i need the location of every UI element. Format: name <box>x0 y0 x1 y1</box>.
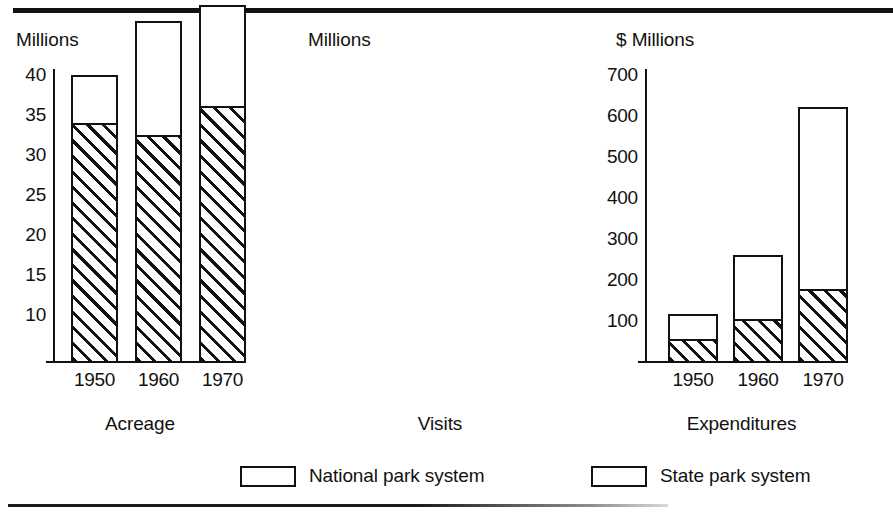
y-tick-label: 25 <box>25 184 46 206</box>
bar-segment-national <box>199 106 246 363</box>
bar-segment-national <box>135 135 182 363</box>
bar-segment-national <box>71 123 118 363</box>
y-tick-label: 20 <box>25 224 46 246</box>
bar-segment-state <box>71 75 118 125</box>
legend-swatch-outline-icon <box>591 466 647 487</box>
legend-item-national-park-system: National park system <box>240 461 484 491</box>
x-tick-label: 1970 <box>202 369 243 391</box>
y-tick-label: 15 <box>25 264 46 286</box>
x-tick-label: 1950 <box>74 369 115 391</box>
bar-1950: 1950 <box>71 75 118 363</box>
y-tick-label: 40 <box>25 64 46 86</box>
y-tick-label: 30 <box>25 144 46 166</box>
panel-title-visits: Visits <box>290 413 590 435</box>
chart-panel-visits: Millions 700 600 500 400 300 200 100 195… <box>297 0 597 455</box>
y-axis-unit-label: Millions <box>308 29 371 51</box>
y-axis-unit-label: Millions <box>16 29 79 51</box>
y-axis-unit-label: $ Millions <box>616 29 694 51</box>
bottom-rule <box>8 504 668 507</box>
chart-panel-expenditures: $ Millions 700 600 500 400 300 200 100 1… <box>600 0 893 455</box>
x-tick-label: 1960 <box>138 369 179 391</box>
legend-swatch-hatched-icon <box>240 466 296 487</box>
legend-label: State park system <box>660 465 810 487</box>
y-tick-label: 35 <box>25 104 46 126</box>
panel-title-expenditures: Expenditures <box>595 413 888 435</box>
bar-1970: 1970 <box>199 5 246 363</box>
figure: Millions 40 35 30 25 20 15 10 1950 1960 <box>0 0 893 515</box>
y-axis-line <box>53 69 55 363</box>
bar-segment-state <box>199 5 246 108</box>
bar-1960: 1960 <box>135 21 182 363</box>
chart-legend: National park system State park system <box>0 461 893 495</box>
bar-segment-state <box>135 21 182 137</box>
y-tick-label: 10 <box>25 304 46 326</box>
chart-panel-acreage: Millions 40 35 30 25 20 15 10 1950 1960 <box>0 0 300 455</box>
plot-area-acreage: 40 35 30 25 20 15 10 1950 1960 <box>53 66 243 363</box>
legend-item-state-park-system: State park system <box>591 461 810 491</box>
legend-label: National park system <box>309 465 484 487</box>
panel-title-acreage: Acreage <box>0 413 290 435</box>
